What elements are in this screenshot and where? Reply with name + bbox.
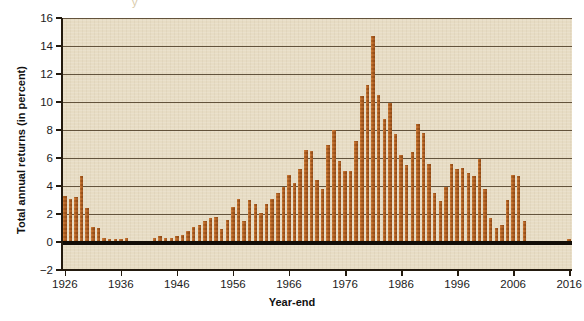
bar-texture: [478, 159, 481, 242]
x-tick-label-1996: 1996: [444, 278, 470, 290]
bar: [511, 175, 514, 242]
y-tick-label-14: 14: [40, 40, 53, 52]
x-tick-1936: [121, 270, 123, 276]
x-tick-label-1956: 1956: [220, 278, 246, 290]
bar: [394, 134, 397, 242]
bar-texture: [439, 201, 442, 242]
bar-texture: [517, 176, 520, 242]
bar: [360, 96, 363, 242]
bar: [293, 183, 296, 242]
bar: [383, 119, 386, 242]
bar: [315, 180, 318, 242]
bar-texture: [523, 221, 526, 242]
gridline-16: [62, 18, 572, 19]
bar-texture: [287, 175, 290, 242]
bar-texture: [450, 164, 453, 242]
x-tick-label-1946: 1946: [164, 278, 190, 290]
bar-texture: [399, 155, 402, 242]
bar-texture: [500, 225, 503, 242]
x-tick-label-2016: 2016: [556, 278, 582, 290]
y-tick-label-10: 10: [40, 96, 53, 108]
bar-texture: [209, 218, 212, 242]
bar: [371, 36, 374, 242]
bar-texture: [383, 119, 386, 242]
bar: [254, 204, 257, 242]
y-tick-label-4: 4: [47, 180, 53, 192]
bar: [517, 176, 520, 242]
y-tick-label-2: 2: [47, 208, 53, 220]
y-tick-12: [56, 73, 62, 75]
bar-texture: [69, 199, 72, 242]
x-tick-2006: [513, 270, 515, 276]
y-axis-line: [61, 18, 63, 270]
bar: [478, 159, 481, 242]
bar: [461, 168, 464, 242]
y-tick-label-12: 12: [40, 68, 53, 80]
bar: [242, 221, 245, 242]
bar-texture: [198, 225, 201, 242]
bar-texture: [276, 193, 279, 242]
bar: [63, 196, 66, 242]
bar: [388, 103, 391, 242]
y-tick-14: [56, 45, 62, 47]
bar-texture: [270, 199, 273, 242]
y-tick-6: [56, 157, 62, 159]
top-edge-artifact: y: [132, 0, 138, 8]
bar: [69, 199, 72, 242]
y-tick-label--2: −2: [40, 264, 53, 276]
y-tick-4: [56, 185, 62, 187]
gridline-8: [62, 130, 572, 131]
bar: [523, 221, 526, 242]
bar: [298, 169, 301, 242]
bar-texture: [422, 133, 425, 242]
y-tick-0: [56, 241, 62, 243]
bar: [472, 176, 475, 242]
bar: [321, 189, 324, 242]
bar: [304, 150, 307, 242]
bar: [270, 199, 273, 242]
bar-texture: [338, 161, 341, 242]
x-tick-label-1936: 1936: [108, 278, 134, 290]
bar-texture: [74, 197, 77, 242]
y-tick-label-8: 8: [47, 124, 53, 136]
gridline-12: [62, 74, 572, 75]
bar-texture: [394, 134, 397, 242]
bar: [85, 208, 88, 242]
bar-texture: [349, 171, 352, 242]
bar: [489, 218, 492, 242]
bar-texture: [321, 189, 324, 242]
bar-texture: [203, 221, 206, 242]
bar-texture: [326, 145, 329, 242]
bar-texture: [192, 227, 195, 242]
x-tick-1926: [65, 270, 67, 276]
bar: [506, 200, 509, 242]
bar: [354, 141, 357, 242]
bar: [422, 133, 425, 242]
bar-texture: [467, 173, 470, 242]
bar-texture: [427, 164, 430, 242]
gridline-6: [62, 158, 572, 159]
bar-texture: [97, 228, 100, 242]
bar-texture: [455, 169, 458, 242]
bar: [439, 201, 442, 242]
bar: [265, 204, 268, 242]
bar-texture: [511, 175, 514, 242]
y-tick--2: [56, 269, 62, 271]
bar: [259, 213, 262, 242]
chart-figure: y Total annual returns (in percent) −202…: [0, 0, 584, 321]
bar-texture: [293, 183, 296, 242]
bar: [366, 85, 369, 242]
bar-texture: [332, 130, 335, 242]
bar: [209, 218, 212, 242]
bar: [97, 228, 100, 242]
y-axis-labels: −20246810121416: [0, 0, 53, 321]
bar: [226, 220, 229, 242]
x-tick-label-2006: 2006: [500, 278, 526, 290]
x-tick-1956: [233, 270, 235, 276]
bar-texture: [416, 124, 419, 242]
bar: [287, 175, 290, 242]
bar: [433, 193, 436, 242]
y-tick-label-6: 6: [47, 152, 53, 164]
bar-texture: [231, 207, 234, 242]
bar: [326, 145, 329, 242]
